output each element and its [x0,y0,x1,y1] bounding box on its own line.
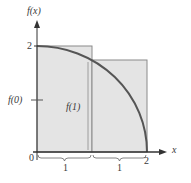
width-brace-1 [38,155,91,161]
width-brace-2 [93,155,146,161]
y-tick-label-2: 2 [27,41,32,51]
f1-label: f(1) [66,102,80,112]
x-axis-label: x [172,145,176,155]
y-axis-label: f(x) [27,6,41,16]
width-label-2: 1 [117,163,122,173]
width-label-1: 1 [63,163,68,173]
f0-label: f(0) [8,95,22,105]
y-axis-arrow-icon [34,20,40,28]
x-tick-label-2: 2 [144,156,149,166]
rectangle-2 [92,60,147,152]
x-axis-arrow-icon [159,149,167,155]
origin-label: 0 [29,153,34,163]
rectangle-1 [37,46,92,152]
riemann-sum-diagram: f(x) x 2 0 f(0) f(1) 1 1 2 [0,0,191,183]
